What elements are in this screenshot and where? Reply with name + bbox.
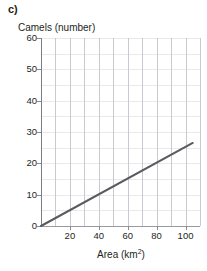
data-line-svg <box>0 0 207 271</box>
x-axis-title: Area (km2) <box>41 249 201 261</box>
series-line <box>41 143 193 226</box>
x-axis-title-base: Area (km <box>97 249 138 260</box>
x-axis-title-close: ) <box>142 249 145 260</box>
